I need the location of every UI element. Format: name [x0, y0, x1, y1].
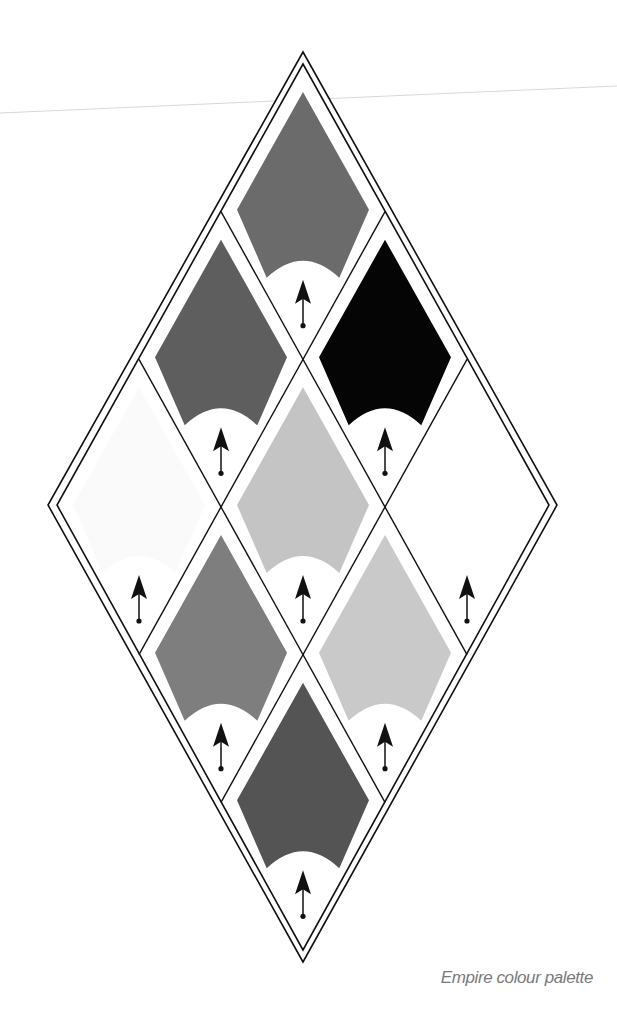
- palette-diagram: [0, 0, 617, 1014]
- swatch-fill: [237, 92, 369, 278]
- caption: Empire colour palette: [441, 968, 593, 988]
